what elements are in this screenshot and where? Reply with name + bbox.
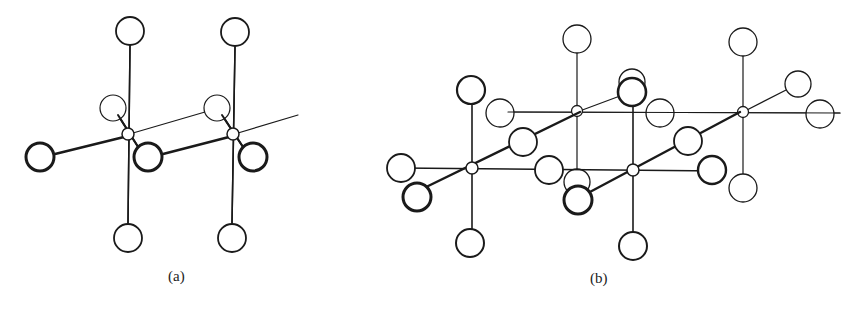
back-atom <box>100 95 126 121</box>
structure-diagram <box>0 0 857 310</box>
back-atom <box>204 95 230 121</box>
panel-b <box>387 25 840 260</box>
panel-b-caption: (b) <box>590 270 608 287</box>
panel-a-caption: (a) <box>168 268 185 285</box>
panel-a <box>26 17 298 252</box>
